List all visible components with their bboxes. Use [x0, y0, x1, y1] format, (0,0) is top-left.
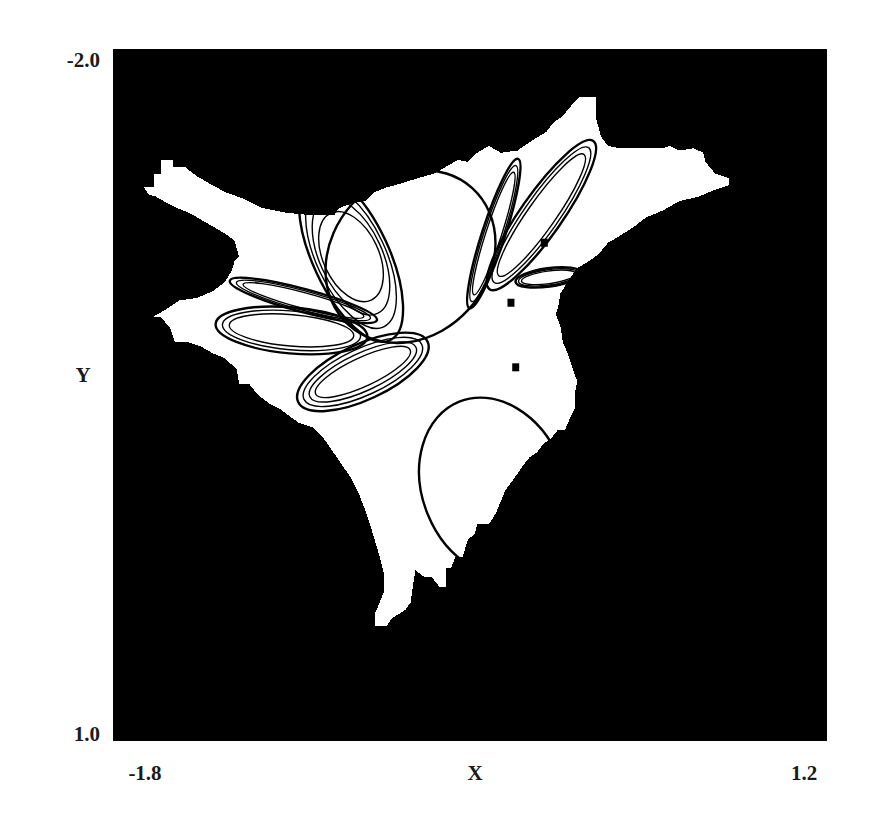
- basin-hole-cell: [517, 483, 524, 491]
- y-tick-label-top: -2.0: [67, 48, 100, 72]
- y-tick-label-bottom: 1.0: [74, 722, 100, 746]
- x-axis-label: X: [467, 761, 482, 785]
- y-axis-label: Y: [75, 363, 90, 387]
- x-tick-label-right: 1.2: [791, 761, 817, 785]
- basin-hole-cell: [507, 299, 514, 307]
- x-tick-label-left: -1.8: [128, 761, 161, 785]
- basin-hole-cell: [512, 363, 519, 371]
- basin-plot: -2.0 1.0 Y -1.8 1.2 X: [0, 0, 873, 834]
